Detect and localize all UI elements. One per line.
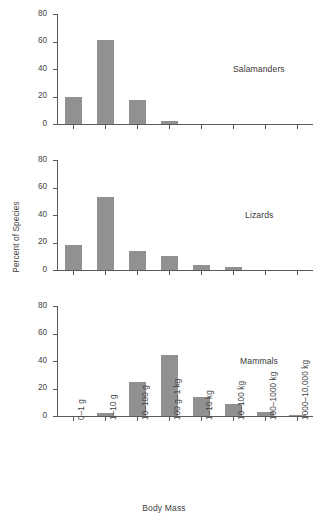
x-tick-label: 100–1000 kg	[269, 372, 278, 420]
y-axis-line	[57, 160, 58, 270]
y-tick-mark	[53, 69, 57, 70]
x-tick-mark	[169, 271, 170, 275]
y-tick-mark	[53, 270, 57, 271]
panel-mammals: 020406080 Mammals	[0, 306, 328, 432]
bar	[97, 197, 114, 270]
panel-caption-salamanders: Salamanders	[233, 64, 285, 74]
bar	[129, 100, 146, 124]
y-tick-label: 0	[7, 412, 47, 420]
y-tick-label: 0	[7, 266, 47, 274]
plot-area-lizards: 020406080	[57, 160, 313, 270]
y-tick-label: 40	[7, 211, 47, 219]
y-tick-label: 0	[7, 120, 47, 128]
y-tick-label: 80	[7, 156, 47, 164]
y-tick-label: 80	[7, 302, 47, 310]
x-tick-mark	[105, 125, 106, 129]
figure: Percent of Species 020406080 Salamanders…	[0, 0, 328, 527]
x-tick-mark	[201, 271, 202, 275]
bar	[161, 121, 178, 124]
y-axis-line	[57, 14, 58, 124]
x-tick-mark	[169, 125, 170, 129]
y-tick-label: 20	[7, 384, 47, 392]
x-tick-label: 1000–10,000 kg	[301, 360, 310, 420]
y-tick-mark	[53, 160, 57, 161]
x-tick-mark	[265, 271, 266, 275]
y-tick-mark	[53, 416, 57, 417]
y-tick-label: 80	[7, 10, 47, 18]
bar	[129, 251, 146, 270]
x-axis-line	[57, 124, 313, 125]
y-tick-label: 20	[7, 92, 47, 100]
y-tick-mark	[53, 361, 57, 362]
bar	[65, 245, 82, 270]
x-tick-mark	[233, 271, 234, 275]
x-tick-mark	[105, 271, 106, 275]
y-tick-label: 40	[7, 357, 47, 365]
x-tick-label: 0–1 g	[77, 399, 86, 420]
y-tick-mark	[53, 124, 57, 125]
y-tick-mark	[53, 215, 57, 216]
x-tick-labels: 0–1 g1–10 g10–100 g100 g–1 kg1–10 kg10–1…	[57, 420, 313, 500]
panel-lizards: 020406080 Lizards	[0, 160, 328, 286]
x-tick-mark	[297, 125, 298, 129]
x-tick-mark	[233, 125, 234, 129]
x-tick-mark	[201, 125, 202, 129]
x-tick-label: 100 g–1 kg	[173, 378, 182, 420]
x-tick-mark	[297, 271, 298, 275]
panel-caption-mammals: Mammals	[240, 356, 278, 366]
bar	[161, 256, 178, 270]
y-tick-mark	[53, 97, 57, 98]
x-axis-title: Body Mass	[0, 503, 328, 513]
x-tick-mark	[137, 271, 138, 275]
panel-salamanders: 020406080 Salamanders	[0, 14, 328, 140]
x-tick-label: 1–10 g	[109, 394, 118, 420]
y-tick-label: 20	[7, 238, 47, 246]
bar	[65, 97, 82, 125]
x-tick-mark	[265, 125, 266, 129]
y-axis-line	[57, 306, 58, 416]
bar	[193, 265, 210, 271]
y-tick-mark	[53, 389, 57, 390]
x-axis-line	[57, 270, 313, 271]
y-tick-mark	[53, 42, 57, 43]
y-tick-mark	[53, 243, 57, 244]
y-tick-mark	[53, 14, 57, 15]
y-tick-label: 60	[7, 37, 47, 45]
y-tick-mark	[53, 306, 57, 307]
x-tick-label: 10–100 g	[141, 385, 150, 420]
y-tick-mark	[53, 188, 57, 189]
x-tick-mark	[73, 271, 74, 275]
y-tick-mark	[53, 334, 57, 335]
bar	[225, 267, 242, 270]
x-tick-mark	[73, 125, 74, 129]
y-tick-label: 60	[7, 329, 47, 337]
x-tick-label: 1–10 kg	[205, 390, 214, 420]
x-tick-label: 10–100 kg	[237, 381, 246, 420]
x-tick-mark	[137, 125, 138, 129]
bar	[97, 40, 114, 124]
panel-caption-lizards: Lizards	[245, 210, 273, 220]
y-tick-label: 40	[7, 65, 47, 73]
y-tick-label: 60	[7, 183, 47, 191]
